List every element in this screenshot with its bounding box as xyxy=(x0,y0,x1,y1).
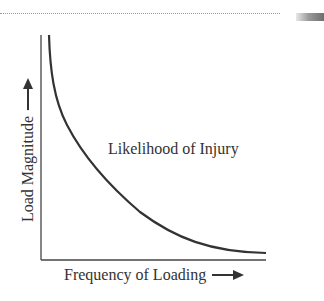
arrow-head xyxy=(233,270,244,280)
x-axis-label-text: Frequency of Loading xyxy=(64,266,206,284)
likelihood-of-injury-label: Likelihood of Injury xyxy=(108,140,239,158)
arrow-head xyxy=(23,78,33,89)
arrow-up-icon xyxy=(23,78,33,110)
x-axis-label: Frequency of Loading xyxy=(64,266,244,284)
arrow-right-icon xyxy=(212,270,244,280)
arrow-shaft xyxy=(27,88,29,110)
y-axis-label-text: Load Magnitude xyxy=(19,116,37,222)
y-axis-label: Load Magnitude xyxy=(19,78,37,222)
arrow-shaft xyxy=(212,274,234,276)
